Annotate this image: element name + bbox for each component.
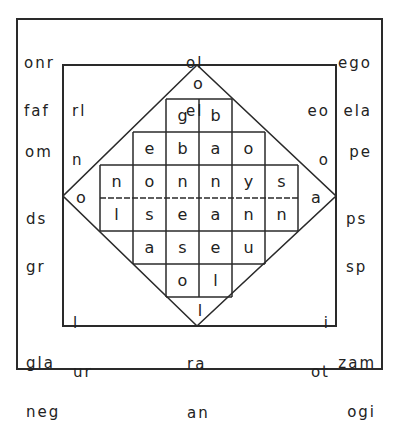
label-line: neg	[26, 405, 60, 420]
label-outer-bottom-right: zam ogi	[338, 326, 376, 424]
tip-bottom: l	[185, 297, 215, 323]
grid-cell: u	[232, 231, 265, 264]
label-line: om	[25, 145, 53, 160]
grid-cell: e	[199, 231, 232, 264]
label-line: ot	[311, 365, 330, 380]
label-line: o	[308, 153, 330, 168]
label-inner-top-right: eo o	[308, 74, 330, 183]
label-line: eo	[308, 104, 330, 119]
label-inner-bottom-left: l ur	[73, 286, 93, 395]
grid-cell: a	[133, 231, 166, 264]
label-line: ur	[73, 365, 93, 380]
grid-cell: s	[166, 231, 199, 264]
label-outer-right: pe	[349, 115, 372, 175]
label-line: l	[73, 316, 93, 331]
label-line: i	[311, 316, 330, 331]
grid-cell: e	[133, 132, 166, 165]
grid-cell: e	[166, 198, 199, 231]
label-line: pe	[349, 145, 372, 160]
label-outer-bottom-left: gla neg	[26, 326, 60, 424]
label-line: gla	[26, 356, 60, 371]
grid-cell: n	[199, 165, 232, 198]
grid-cell: a	[199, 132, 232, 165]
tip-left: o	[66, 182, 96, 212]
grid-cell: n	[265, 198, 298, 231]
grid-cell: n	[100, 165, 133, 198]
tip-right: a	[301, 182, 331, 212]
label-line: ego	[338, 56, 372, 71]
grid-cell: o	[166, 264, 199, 297]
label-line: ra	[187, 357, 210, 372]
grid-cell: b	[199, 99, 232, 132]
label-inner-bottom-right: i ot	[311, 286, 330, 395]
label-line: an	[187, 406, 210, 421]
label-line: rl	[72, 104, 86, 119]
label-line: ps	[346, 212, 367, 227]
tip-top: o	[183, 68, 213, 98]
label-line: ds	[26, 212, 47, 227]
grid-cell: o	[133, 165, 166, 198]
grid-cell: g	[166, 99, 199, 132]
label-outer-mid-left: ds gr	[26, 182, 47, 290]
grid-cell: b	[166, 132, 199, 165]
grid-cell: s	[265, 165, 298, 198]
label-inner-top-left: rl n	[72, 74, 86, 183]
label-line: zam	[338, 356, 376, 371]
grid-cell: y	[232, 165, 265, 198]
grid-cell: o	[232, 132, 265, 165]
grid-cell: n	[166, 165, 199, 198]
grid-cell: l	[100, 198, 133, 231]
label-outer-left: om	[25, 115, 53, 175]
label-outer-mid-right: ps sp	[346, 182, 367, 290]
label-line: gr	[26, 260, 47, 275]
grid-cell: l	[199, 264, 232, 297]
label-line: ogi	[338, 405, 376, 420]
label-line: onr	[24, 56, 55, 71]
label-line: sp	[346, 260, 367, 275]
label-outer-bottom-center: ra an	[187, 327, 210, 424]
grid-cell: a	[199, 198, 232, 231]
grid-cell: n	[232, 198, 265, 231]
grid-cell: s	[133, 198, 166, 231]
label-line: n	[72, 153, 86, 168]
